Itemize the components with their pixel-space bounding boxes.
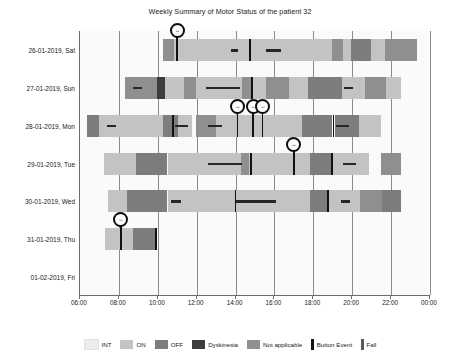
- bar-row: [80, 190, 429, 212]
- status-segment: [252, 77, 266, 99]
- button-event-line: [172, 115, 174, 137]
- x-axis-tick-label: 22:00: [382, 299, 398, 306]
- legend-label: Button Event: [317, 341, 352, 348]
- chart-legend: INTONOFFDyskinesiaNot applicableButton E…: [0, 336, 460, 352]
- fall-marker: [231, 49, 239, 52]
- legend-label: Not applicable: [263, 341, 302, 348]
- status-segment: [108, 190, 126, 212]
- x-axis-tick-label: 16:00: [266, 299, 282, 306]
- button-event-marker-icon[interactable]: ↔: [230, 99, 245, 114]
- button-event-line: [235, 190, 237, 212]
- button-event-marker-icon[interactable]: ↔: [255, 99, 270, 114]
- legend-swatch: [361, 339, 363, 350]
- button-event-line: [327, 190, 329, 212]
- bar-row: ↔↔↔: [80, 115, 429, 137]
- fall-marker: [235, 200, 277, 203]
- legend-label: OFF: [171, 341, 183, 348]
- button-event-marker-icon[interactable]: ↔: [113, 212, 128, 227]
- legend-item[interactable]: OFF: [155, 340, 183, 349]
- status-segment: [136, 153, 167, 175]
- y-axis-tick-label: 26-01-2019, Sat: [1, 46, 75, 53]
- status-segment: [133, 228, 155, 250]
- fall-marker: [107, 125, 116, 128]
- x-axis-tick-label: 10:00: [149, 299, 165, 306]
- status-segment: [365, 77, 386, 99]
- x-axis-tick-label: 06:00: [71, 299, 87, 306]
- plot-area: ↔↔↔↔↔↔: [79, 31, 429, 296]
- fall-marker: [343, 163, 357, 166]
- x-axis-tick-label: 14:00: [227, 299, 243, 306]
- bar-row: ↔: [80, 39, 429, 61]
- status-segment: [308, 77, 341, 99]
- button-event-line: [331, 153, 333, 175]
- button-event-line: [333, 115, 335, 137]
- button-event-marker-icon[interactable]: ↔: [170, 23, 185, 38]
- x-axis-tick-label: 08:00: [110, 299, 126, 306]
- button-event-line: [251, 77, 253, 99]
- y-axis-labels: 26-01-2019, Sat27-01-2019, Sun28-01-2019…: [0, 31, 75, 296]
- button-event-glyph: ↔: [235, 104, 240, 109]
- x-axis-tick-label: 00:00: [421, 299, 437, 306]
- button-event-line: [250, 153, 252, 175]
- legend-item[interactable]: Dyskinesia: [192, 340, 238, 349]
- status-segment: [216, 115, 302, 137]
- bar-row: ↔: [80, 228, 429, 250]
- bar-row: [80, 266, 429, 288]
- y-axis-tick-label: 30-01-2019, Wed: [1, 198, 75, 205]
- fall-marker: [171, 200, 181, 203]
- status-segment: [266, 77, 289, 99]
- x-axis-labels: 06:0008:0010:0012:0014:0016:0018:0020:00…: [79, 299, 429, 315]
- status-segment: [163, 39, 175, 61]
- button-event-glyph: ↔: [119, 217, 124, 222]
- legend-swatch: [84, 339, 99, 350]
- fall-marker: [341, 200, 351, 203]
- status-segment: [359, 115, 381, 137]
- status-segment: [184, 77, 196, 99]
- legend-swatch: [155, 340, 168, 349]
- status-segment: [351, 39, 370, 61]
- status-segment: [127, 190, 167, 212]
- fall-marker: [208, 163, 242, 166]
- status-segment: [165, 77, 184, 99]
- y-axis-tick-label: 31-01-2019, Thu: [1, 236, 75, 243]
- legend-item[interactable]: Not applicable: [247, 340, 302, 349]
- chart-title: Weekly Summary of Motor Status of the pa…: [0, 7, 460, 16]
- gridline: [430, 31, 431, 295]
- legend-label: Dyskinesia: [208, 341, 238, 348]
- status-segment: [87, 115, 100, 137]
- status-segment: [360, 190, 382, 212]
- status-segment: [302, 115, 332, 137]
- legend-item[interactable]: ON: [120, 340, 145, 349]
- fall-marker: [133, 87, 142, 90]
- y-axis-tick-label: 01-02-2019, Fri: [1, 274, 75, 281]
- button-event-glyph: ↔: [260, 104, 265, 109]
- status-segment: [104, 153, 136, 175]
- fall-marker: [344, 87, 353, 90]
- legend-label: INT: [102, 341, 112, 348]
- x-axis-tick-label: 18:00: [304, 299, 320, 306]
- x-axis-tick-label: 12:00: [188, 299, 204, 306]
- legend-swatch: [247, 340, 260, 349]
- fall-marker: [266, 49, 282, 52]
- legend-swatch: [311, 339, 313, 350]
- status-segment: [332, 39, 344, 61]
- y-axis-tick-label: 29-01-2019, Tue: [1, 160, 75, 167]
- motor-status-chart: Weekly Summary of Motor Status of the pa…: [0, 0, 460, 361]
- legend-swatch: [192, 340, 205, 349]
- bar-row: ↔: [80, 153, 429, 175]
- y-axis-tick-label: 28-01-2019, Mon: [1, 122, 75, 129]
- button-event-marker-icon[interactable]: ↔: [286, 137, 301, 152]
- x-axis-tick-label: 20:00: [343, 299, 359, 306]
- status-segment: [310, 190, 328, 212]
- status-segment: [343, 39, 351, 61]
- status-segment: [381, 153, 400, 175]
- status-segment: [289, 77, 308, 99]
- legend-label: Fall: [367, 341, 377, 348]
- legend-item[interactable]: Button Event: [311, 339, 352, 350]
- legend-item[interactable]: Fall: [361, 339, 376, 350]
- legend-item[interactable]: INT: [84, 339, 112, 350]
- y-axis-tick-label: 27-01-2019, Sun: [1, 84, 75, 91]
- status-segment: [371, 39, 386, 61]
- fall-marker: [336, 125, 350, 128]
- button-event-line: [155, 228, 157, 250]
